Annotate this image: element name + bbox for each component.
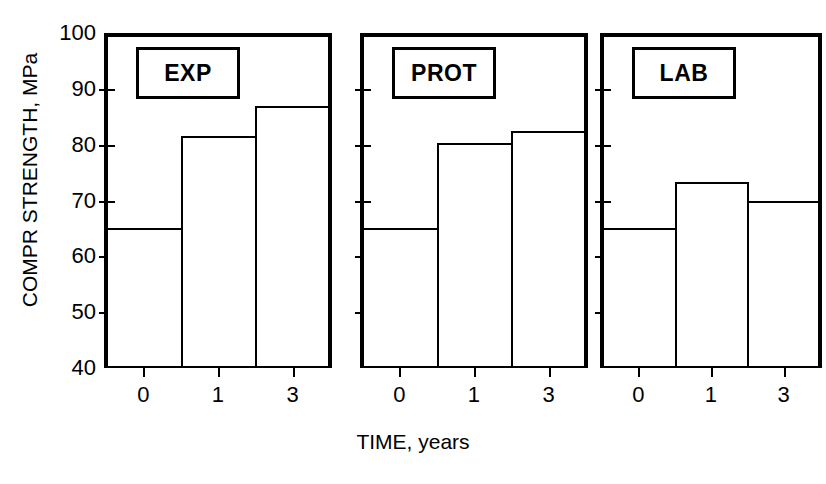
x-axis-tick-labels: 013 bbox=[600, 382, 822, 412]
y-tick-label: 100 bbox=[34, 22, 96, 44]
x-tick-label: 0 bbox=[106, 382, 181, 408]
x-tick-mark bbox=[293, 366, 295, 377]
x-tick-label: 0 bbox=[362, 382, 437, 408]
y-tick-label: 80 bbox=[34, 134, 96, 156]
bar bbox=[255, 106, 330, 366]
bar bbox=[181, 136, 258, 366]
x-tick-label: 3 bbox=[255, 382, 330, 408]
chart-figure: COMPR STRENGTH, MPa 100908070605040 EXPP… bbox=[0, 0, 826, 484]
x-axis-title: TIME, years bbox=[0, 430, 826, 454]
panel-tag-exp: EXP bbox=[136, 47, 240, 99]
x-tick-label: 3 bbox=[511, 382, 586, 408]
x-tick-mark bbox=[549, 366, 551, 377]
panel-tag-lab: LAB bbox=[632, 47, 736, 99]
bar bbox=[675, 182, 750, 366]
x-tick-mark bbox=[638, 366, 640, 377]
bar bbox=[747, 201, 820, 367]
y-tick-label: 40 bbox=[34, 357, 96, 379]
chart-panel-lab: LAB bbox=[600, 33, 822, 368]
y-tick-label: 60 bbox=[34, 245, 96, 267]
panel-tag-prot: PROT bbox=[392, 47, 496, 99]
bar bbox=[437, 143, 514, 366]
x-tick-label: 1 bbox=[675, 382, 748, 408]
bar bbox=[511, 131, 586, 366]
bar bbox=[602, 228, 677, 366]
x-axis-tick-labels: 013 bbox=[360, 382, 588, 412]
x-tick-mark bbox=[474, 366, 476, 377]
x-tick-label: 1 bbox=[181, 382, 256, 408]
x-tick-label: 3 bbox=[747, 382, 820, 408]
y-axis-tick-labels: 100908070605040 bbox=[34, 20, 96, 380]
x-tick-mark bbox=[399, 366, 401, 377]
x-tick-mark bbox=[711, 366, 713, 377]
x-tick-label: 0 bbox=[602, 382, 675, 408]
bar bbox=[106, 228, 183, 366]
x-tick-mark bbox=[143, 366, 145, 377]
chart-panel-exp: EXP bbox=[104, 33, 332, 368]
y-tick-label: 70 bbox=[34, 190, 96, 212]
x-tick-mark bbox=[218, 366, 220, 377]
y-tick-label: 90 bbox=[34, 78, 96, 100]
chart-panel-prot: PROT bbox=[360, 33, 588, 368]
x-tick-mark bbox=[784, 366, 786, 377]
y-tick-label: 50 bbox=[34, 301, 96, 323]
bar bbox=[362, 228, 439, 366]
x-tick-label: 1 bbox=[437, 382, 512, 408]
x-axis-tick-labels: 013 bbox=[104, 382, 332, 412]
